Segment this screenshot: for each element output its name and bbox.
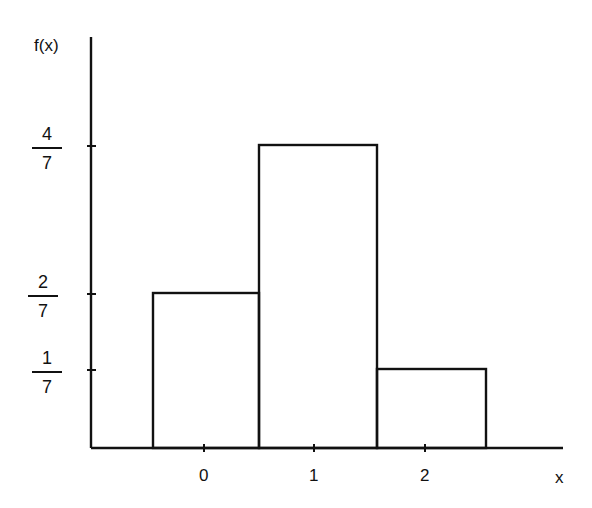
y-tick-denominator: 7	[32, 153, 62, 173]
bar-x-2	[377, 369, 486, 448]
fraction-bar	[32, 147, 62, 149]
x-tick-label-2: 2	[420, 466, 429, 486]
x-tick-label-0: 0	[199, 466, 208, 486]
y-tick-label-1-7: 1 7	[32, 348, 62, 397]
y-tick-numerator: 2	[28, 272, 58, 292]
x-axis-label: x	[555, 468, 564, 488]
y-tick-denominator: 7	[32, 377, 62, 397]
bar-x-1	[259, 145, 377, 448]
y-tick-numerator: 4	[32, 124, 62, 144]
y-tick-numerator: 1	[32, 348, 62, 368]
y-tick-label-4-7: 4 7	[32, 124, 62, 173]
y-axis-label: f(x)	[34, 36, 59, 56]
histogram-plot	[0, 0, 592, 508]
y-tick-label-2-7: 2 7	[28, 272, 58, 321]
fraction-bar	[28, 295, 58, 297]
y-tick-denominator: 7	[28, 301, 58, 321]
x-tick-label-1: 1	[309, 466, 318, 486]
bar-x-0	[153, 293, 259, 448]
fraction-bar	[32, 371, 62, 373]
